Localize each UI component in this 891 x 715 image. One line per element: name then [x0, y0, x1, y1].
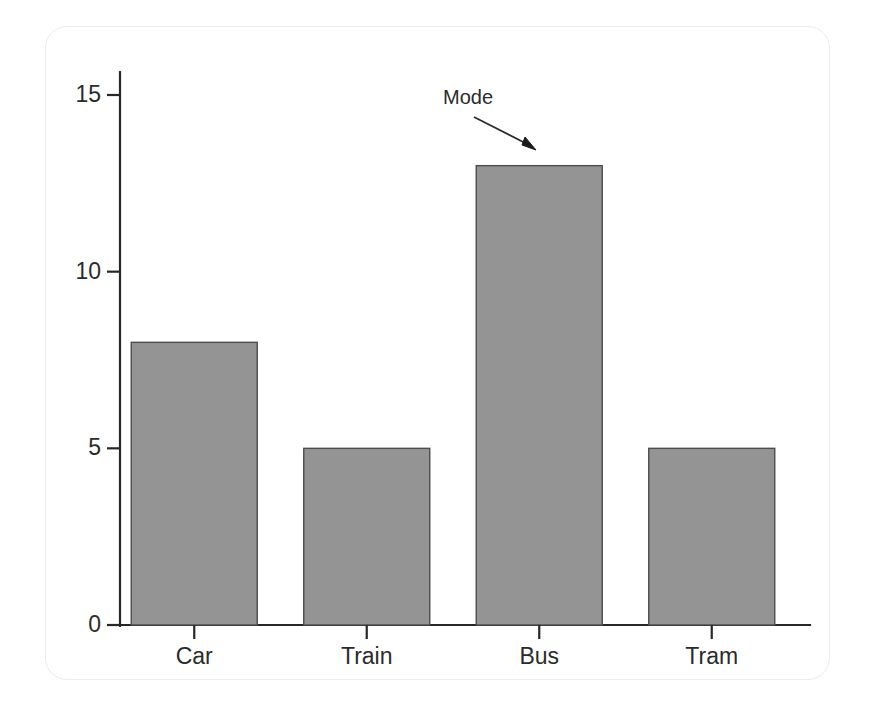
y-tick-label: 15: [75, 81, 101, 107]
x-tick-label: Train: [341, 643, 393, 669]
bar-bus: [476, 166, 602, 625]
y-axis-ticks: 051015: [75, 81, 120, 637]
bar-chart: 051015 CarTrainBusTram Mode: [0, 0, 891, 715]
y-tick-label: 10: [75, 258, 101, 284]
y-tick-label: 0: [88, 611, 101, 637]
mode-annotation: Mode: [443, 86, 536, 150]
bar-train: [304, 448, 430, 625]
bars-group: [131, 166, 775, 625]
annotation-label: Mode: [443, 86, 493, 108]
x-tick-label: Tram: [685, 643, 738, 669]
annotation-arrow-line: [474, 117, 529, 145]
x-tick-label: Car: [176, 643, 213, 669]
x-tick-label: Bus: [519, 643, 559, 669]
bar-car: [131, 342, 257, 625]
x-axis-ticks: CarTrainBusTram: [176, 625, 738, 669]
bar-tram: [649, 448, 775, 625]
annotation-arrow-head: [522, 137, 536, 150]
y-tick-label: 5: [88, 434, 101, 460]
